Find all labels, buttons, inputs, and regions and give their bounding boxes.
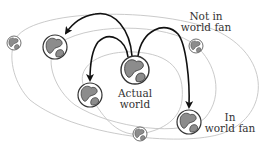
label-actual-world-line2: world	[114, 99, 156, 110]
label-in-world-fan: In world fan	[202, 112, 258, 134]
globe-not-in-fan	[189, 39, 203, 53]
label-not-in-fan-line2: world fan	[176, 22, 236, 33]
arrow-to-upper-left-world	[66, 13, 132, 56]
globe-mid-left	[78, 83, 102, 107]
label-in-fan-line2: world fan	[202, 123, 258, 134]
globe-bottom	[133, 127, 147, 141]
label-actual-world: Actual world	[114, 88, 156, 110]
label-not-in-world-fan: Not in world fan	[176, 11, 236, 33]
globe-in-fan	[177, 110, 201, 134]
globe-far-left	[7, 36, 21, 50]
globe-actual-world	[121, 56, 149, 84]
globe-upper-left	[43, 35, 67, 59]
